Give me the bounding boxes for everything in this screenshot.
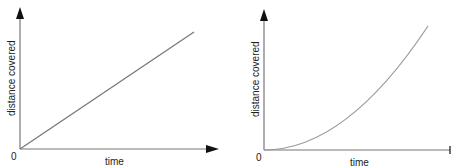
origin-label: 0 (11, 151, 17, 162)
y-axis-label: distance covered (250, 41, 261, 117)
data-curve (264, 26, 428, 150)
data-line (20, 32, 194, 149)
origin-label: 0 (256, 152, 262, 163)
x-axis-arrow-icon (206, 145, 219, 153)
chart-left: 0 time distance covered (6, 7, 219, 167)
x-axis-label: time (105, 156, 124, 167)
y-axis-arrow-icon (16, 7, 24, 19)
chart-right: 0 time distance covered (250, 9, 450, 168)
y-axis-label: distance covered (6, 40, 17, 116)
y-axis-arrow-icon (260, 9, 268, 21)
charts-canvas: 0 time distance covered 0 time distance … (0, 0, 451, 168)
x-axis-label: time (350, 157, 369, 168)
